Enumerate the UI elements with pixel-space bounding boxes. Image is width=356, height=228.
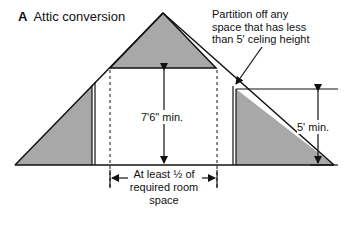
figure-title: AAttic conversion [18,9,125,24]
partition-pointer-arrow [236,47,262,84]
partition-note: Partition off any space that has less th… [212,8,310,46]
panel-letter: A [18,9,27,24]
width-label-line: required room [110,181,218,194]
title-text: Attic conversion [33,9,125,24]
knee-wall-height-label: 5' min. [297,120,329,134]
partition-note-line: Partition off any [212,8,310,21]
partition-note-line: than 5' celing height [212,33,310,46]
minimum-width-label: At least ½ of required room space [110,168,218,207]
width-label-line: space [110,194,218,207]
width-label-line: At least ½ of [110,168,218,181]
partition-note-line: space that has less [212,21,310,34]
ceiling-height-label: 7'6" min. [141,110,183,124]
upper-attic-shaded-area [110,13,216,68]
